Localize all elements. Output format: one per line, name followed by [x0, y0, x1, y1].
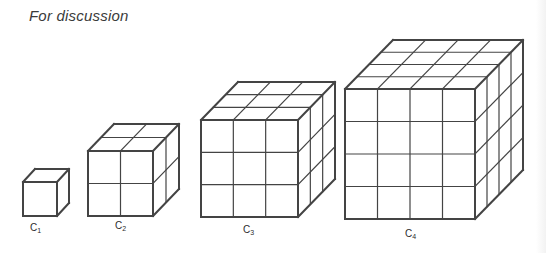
- cube-c4: [345, 40, 523, 219]
- label-c4-sub: 4: [412, 233, 416, 240]
- label-c3-sub: 3: [250, 229, 254, 236]
- cube-c2: [88, 124, 179, 216]
- cube-label-c1: C1: [30, 222, 41, 234]
- cube-label-c3: C3: [243, 224, 254, 236]
- cubes-diagram: [0, 0, 546, 253]
- label-c1-sub: 1: [37, 227, 41, 234]
- cube-c3: [201, 82, 335, 217]
- cube-label-c4: C4: [405, 228, 416, 240]
- page-edge-shadow: [536, 0, 546, 253]
- label-c2-sub: 2: [122, 225, 126, 232]
- cube-c1: [23, 169, 69, 216]
- cube-label-c2: C2: [115, 220, 126, 232]
